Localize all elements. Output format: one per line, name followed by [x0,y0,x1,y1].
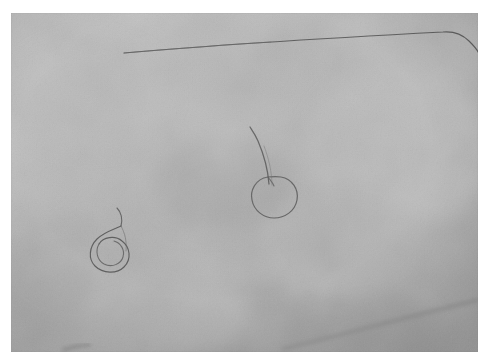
photo-canvas [0,0,489,364]
photo-vignette [11,13,478,352]
photo-render [11,13,478,352]
photograph-image [11,13,478,352]
